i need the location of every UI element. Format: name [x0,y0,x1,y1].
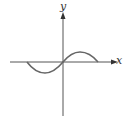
y-axis-arrow-icon [61,12,66,19]
x-axis-label: x [116,55,122,66]
y-axis-label: y [60,1,66,12]
graph-canvas [0,0,125,121]
graph-figure: y x [0,0,125,121]
